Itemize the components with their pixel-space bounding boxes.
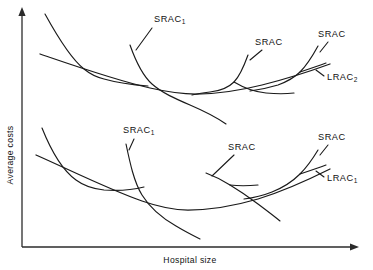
x-axis-arrowhead xyxy=(350,243,359,250)
upper-srac-curve-4 xyxy=(250,46,318,91)
upper-srac-curve-2 xyxy=(130,45,226,124)
upper-srac-right-leader xyxy=(320,42,328,52)
lower-panel-group: SRAC1 SRAC SRAC LRAC1 xyxy=(36,125,358,239)
lower-srac-curve-4 xyxy=(244,150,318,199)
x-axis-title: Hospital size xyxy=(163,255,216,265)
lrac2-envelope-curve xyxy=(40,54,330,94)
lower-srac-mid-leader xyxy=(212,155,234,176)
upper-srac-mid-leader xyxy=(250,50,262,60)
upper-srac-right-label: SRAC xyxy=(318,29,346,39)
lower-srac-curve-2 xyxy=(126,144,200,239)
upper-panel-group: SRAC1 SRAC SRAC LRAC2 xyxy=(40,14,358,124)
upper-srac-mid-label: SRAC xyxy=(255,37,283,47)
lower-srac1-leader xyxy=(129,139,134,150)
y-axis-title: Average costs xyxy=(5,126,15,185)
lower-srac-curve-3 xyxy=(206,173,280,221)
upper-srac-curve-1 xyxy=(45,14,148,86)
lower-srac-right-leader xyxy=(320,145,328,155)
axes-group xyxy=(18,7,359,251)
lower-srac1-label: SRAC1 xyxy=(123,125,155,136)
upper-srac1-leader xyxy=(136,28,152,50)
upper-srac1-label: SRAC1 xyxy=(154,14,186,25)
lower-srac-right-label: SRAC xyxy=(318,132,346,142)
lower-lrac1-label: LRAC1 xyxy=(327,173,358,184)
upper-lrac2-leader xyxy=(316,70,324,76)
cost-curve-figure: SRAC1 SRAC SRAC LRAC2 SRAC1 xyxy=(0,0,373,270)
upper-lrac2-label: LRAC2 xyxy=(327,72,358,83)
upper-srac-curve-3 xyxy=(192,55,248,95)
lower-srac-mid-label: SRAC xyxy=(228,142,256,152)
upper-srac-curve-3b xyxy=(234,82,294,94)
y-axis-arrowhead xyxy=(18,7,25,16)
lower-srac-curve-3b xyxy=(230,185,258,186)
